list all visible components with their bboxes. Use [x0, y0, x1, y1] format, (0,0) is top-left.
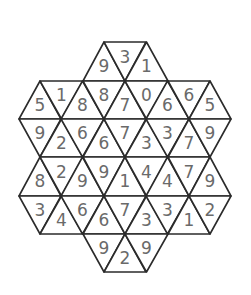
- cell-digit: 9: [205, 123, 216, 143]
- cell-digit: 3: [141, 133, 152, 153]
- cell-digit: 9: [99, 56, 110, 76]
- cell-digit: 7: [120, 95, 131, 115]
- cell-digit: 0: [141, 85, 152, 105]
- cell-digit: 9: [205, 171, 216, 191]
- triangle-cells: 9315188706659266733798299144793466733129…: [19, 42, 231, 272]
- cell-digit: 4: [162, 171, 173, 191]
- puzzle-board: 9315188706659266733798299144793466733129…: [0, 0, 251, 295]
- cell-digit: 1: [184, 210, 195, 230]
- cell-digit: 2: [56, 133, 67, 153]
- cell-digit: 5: [35, 95, 46, 115]
- cell-digit: 4: [56, 210, 67, 230]
- cell-digit: 6: [99, 133, 110, 153]
- cell-digit: 8: [99, 85, 110, 105]
- cell-digit: 6: [77, 123, 88, 143]
- cell-digit: 3: [162, 123, 173, 143]
- cell-digit: 6: [184, 85, 195, 105]
- cell-digit: 1: [56, 85, 67, 105]
- cell-digit: 9: [35, 123, 46, 143]
- cell-digit: 3: [162, 200, 173, 220]
- cell-digit: 7: [120, 200, 131, 220]
- cell-digit: 5: [205, 95, 216, 115]
- cell-digit: 3: [35, 200, 46, 220]
- cell-digit: 6: [162, 95, 173, 115]
- cell-digit: 9: [99, 238, 110, 258]
- cell-digit: 1: [141, 56, 152, 76]
- cell-digit: 9: [99, 162, 110, 182]
- cell-digit: 7: [184, 162, 195, 182]
- cell-digit: 8: [77, 95, 88, 115]
- cell-digit: 6: [99, 210, 110, 230]
- cell-digit: 9: [141, 238, 152, 258]
- cell-digit: 8: [35, 171, 46, 191]
- cell-digit: 4: [141, 162, 152, 182]
- cell-digit: 7: [184, 133, 195, 153]
- cell-digit: 1: [120, 171, 131, 191]
- cell-digit: 6: [77, 200, 88, 220]
- cell-digit: 3: [120, 47, 131, 67]
- cell-digit: 2: [56, 162, 67, 182]
- cell-digit: 2: [205, 200, 216, 220]
- cell-digit: 9: [77, 171, 88, 191]
- cell-digit: 2: [120, 248, 131, 268]
- cell-digit: 3: [141, 210, 152, 230]
- cell-digit: 7: [120, 123, 131, 143]
